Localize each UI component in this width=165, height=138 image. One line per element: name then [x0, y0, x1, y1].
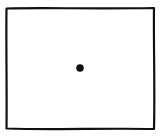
sketch-canvas [0, 0, 165, 138]
center-dot [76, 64, 84, 72]
